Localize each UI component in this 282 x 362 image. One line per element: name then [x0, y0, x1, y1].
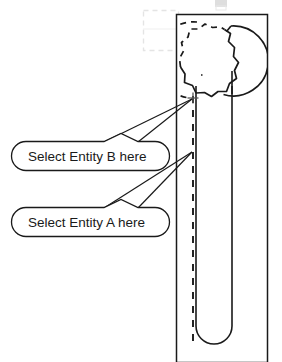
cropped-toolbar-artifact	[215, 0, 227, 10]
ghost-selection-rectangle	[143, 11, 179, 51]
drawing-frame	[177, 15, 268, 362]
callout-entity-b-label: Select Entity B here	[28, 149, 147, 164]
callout-entity-b[interactable]: Select Entity B here	[12, 134, 170, 171]
callout-entity-a-label: Select Entity A here	[28, 215, 145, 230]
diagram-canvas: Select Entity B here Select Entity A her…	[0, 0, 282, 362]
callout-entity-a[interactable]: Select Entity A here	[12, 200, 170, 237]
technical-drawing-svg: Select Entity B here Select Entity A her…	[0, 0, 282, 362]
